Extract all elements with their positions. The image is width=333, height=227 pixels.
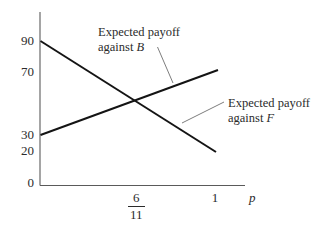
series-line-against-f	[41, 41, 217, 152]
annotation-against-f-prefix: against	[228, 111, 267, 125]
fraction-six-elevenths: 6 11	[128, 191, 145, 221]
annotation-against-f: Expected payoff against F	[228, 96, 310, 126]
series-line-against-b	[41, 70, 219, 135]
annotation-against-b-symbol: B	[137, 40, 145, 54]
y-tick-label-20: 20	[8, 144, 34, 157]
annotation-against-f-symbol: F	[267, 111, 275, 125]
x-tick-label-six-elevenths: 6 11	[128, 191, 145, 222]
y-tick-label-70: 70	[8, 65, 34, 78]
annotation-against-b-prefix: against	[98, 40, 137, 54]
x-axis-label-p: p	[249, 191, 256, 204]
annotation-against-b-line2: against B	[98, 40, 180, 55]
annotation-against-f-line1: Expected payoff	[228, 96, 310, 111]
y-tick-label-30: 30	[8, 128, 34, 141]
y-tick-label-90: 90	[8, 34, 34, 47]
fraction-denominator: 11	[128, 208, 145, 222]
annotation-against-b-line1: Expected payoff	[98, 25, 180, 40]
payoff-chart-figure: 90 70 30 20 0 6 11 1 p Expected payoff a…	[0, 0, 333, 227]
x-tick-label-one: 1	[209, 191, 221, 204]
annotation-against-f-line2: against F	[228, 111, 310, 126]
annotation-against-b: Expected payoff against B	[98, 25, 180, 55]
leader-line-against-f	[182, 102, 224, 123]
y-tick-label-0: 0	[8, 176, 34, 189]
fraction-numerator: 6	[128, 191, 145, 205]
